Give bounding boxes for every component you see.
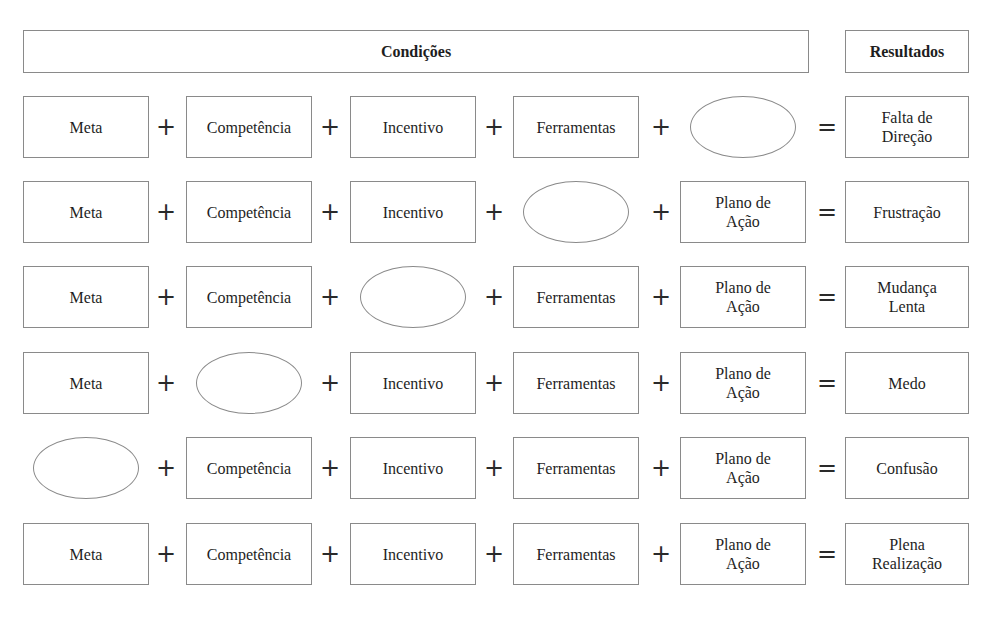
result-label: Frustração [873, 203, 941, 222]
plus-operator: + [318, 371, 342, 395]
condition-label: Competência [207, 459, 291, 478]
condition-label: Plano deAção [715, 449, 771, 487]
condition-label: Competência [207, 545, 291, 564]
equals-operator: = [815, 115, 839, 139]
condition-box: Competência [186, 523, 312, 585]
condition-label: Plano deAção [715, 193, 771, 231]
condition-box: Plano deAção [680, 266, 806, 328]
equation-row: Meta+Competência+Incentivo++Plano deAção… [0, 181, 999, 243]
missing-condition-ellipse [360, 266, 466, 328]
equals-operator: = [815, 456, 839, 480]
equals-operator: = [815, 200, 839, 224]
results-header-label: Resultados [870, 42, 945, 61]
condition-label: Ferramentas [536, 288, 615, 307]
result-box: Medo [845, 352, 969, 414]
plus-operator: + [154, 456, 178, 480]
plus-operator: + [649, 285, 673, 309]
condition-box: Plano deAção [680, 437, 806, 499]
condition-box: Meta [23, 523, 149, 585]
plus-operator: + [482, 542, 506, 566]
condition-label: Incentivo [383, 118, 443, 137]
condition-label: Plano deAção [715, 364, 771, 402]
missing-condition-ellipse [523, 181, 629, 243]
condition-box: Ferramentas [513, 266, 639, 328]
plus-operator: + [154, 115, 178, 139]
result-label: MudançaLenta [877, 278, 937, 316]
condition-label: Plano deAção [715, 535, 771, 573]
plus-operator: + [154, 542, 178, 566]
result-box: Frustração [845, 181, 969, 243]
condition-box: Ferramentas [513, 96, 639, 158]
plus-operator: + [482, 456, 506, 480]
condition-box: Ferramentas [513, 523, 639, 585]
condition-label: Incentivo [383, 203, 443, 222]
condition-label: Meta [70, 374, 103, 393]
plus-operator: + [482, 371, 506, 395]
equals-operator: = [815, 285, 839, 309]
plus-operator: + [154, 285, 178, 309]
plus-operator: + [318, 115, 342, 139]
condition-box: Incentivo [350, 523, 476, 585]
condition-box: Competência [186, 96, 312, 158]
plus-operator: + [318, 542, 342, 566]
plus-operator: + [649, 115, 673, 139]
plus-operator: + [482, 285, 506, 309]
equals-operator: = [815, 542, 839, 566]
plus-operator: + [318, 200, 342, 224]
condition-label: Competência [207, 288, 291, 307]
result-box: PlenaRealização [845, 523, 969, 585]
condition-box: Incentivo [350, 352, 476, 414]
condition-box: Competência [186, 437, 312, 499]
result-label: Falta deDireção [881, 108, 932, 146]
condition-box: Incentivo [350, 181, 476, 243]
condition-box: Incentivo [350, 96, 476, 158]
results-header: Resultados [845, 30, 969, 73]
result-box: Confusão [845, 437, 969, 499]
condition-box: Meta [23, 352, 149, 414]
missing-condition-ellipse [33, 437, 139, 499]
condition-label: Ferramentas [536, 118, 615, 137]
plus-operator: + [482, 200, 506, 224]
plus-operator: + [318, 456, 342, 480]
equation-row: Meta+Competência++Ferramentas+Plano deAç… [0, 266, 999, 328]
plus-operator: + [154, 371, 178, 395]
missing-condition-ellipse [690, 96, 796, 158]
plus-operator: + [649, 371, 673, 395]
condition-box: Competência [186, 266, 312, 328]
condition-label: Meta [70, 288, 103, 307]
missing-condition-ellipse [196, 352, 302, 414]
result-label: Confusão [876, 459, 937, 478]
condition-label: Ferramentas [536, 374, 615, 393]
condition-box: Plano deAção [680, 181, 806, 243]
condition-label: Competência [207, 203, 291, 222]
condition-label: Plano deAção [715, 278, 771, 316]
condition-box: Meta [23, 181, 149, 243]
plus-operator: + [318, 285, 342, 309]
equals-operator: = [815, 371, 839, 395]
result-box: MudançaLenta [845, 266, 969, 328]
condition-box: Meta [23, 96, 149, 158]
plus-operator: + [649, 456, 673, 480]
condition-label: Incentivo [383, 374, 443, 393]
condition-label: Incentivo [383, 459, 443, 478]
conditions-header-label: Condições [381, 42, 451, 61]
condition-label: Meta [70, 545, 103, 564]
equation-row: +Competência+Incentivo+Ferramentas+Plano… [0, 437, 999, 499]
condition-box: Plano deAção [680, 523, 806, 585]
equation-row: Meta+Competência+Incentivo+Ferramentas+=… [0, 96, 999, 158]
conditions-header: Condições [23, 30, 809, 73]
condition-label: Meta [70, 118, 103, 137]
condition-label: Competência [207, 118, 291, 137]
result-label: PlenaRealização [872, 535, 942, 573]
condition-label: Meta [70, 203, 103, 222]
result-label: Medo [888, 374, 925, 393]
condition-box: Competência [186, 181, 312, 243]
plus-operator: + [482, 115, 506, 139]
equation-row: Meta++Incentivo+Ferramentas+Plano deAção… [0, 352, 999, 414]
condition-label: Ferramentas [536, 459, 615, 478]
condition-box: Ferramentas [513, 352, 639, 414]
result-box: Falta deDireção [845, 96, 969, 158]
condition-box: Incentivo [350, 437, 476, 499]
condition-box: Plano deAção [680, 352, 806, 414]
condition-label: Incentivo [383, 545, 443, 564]
